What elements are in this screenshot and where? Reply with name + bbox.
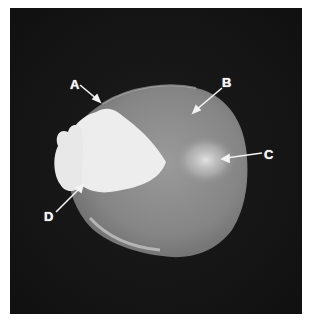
label-b: B <box>222 76 231 89</box>
kernel-illustration <box>10 8 302 314</box>
label-d: D <box>44 210 53 223</box>
kernel-photo: A B C D <box>10 8 302 314</box>
label-c: C <box>264 148 273 161</box>
tip-cap <box>54 125 83 191</box>
label-a: A <box>70 78 79 91</box>
